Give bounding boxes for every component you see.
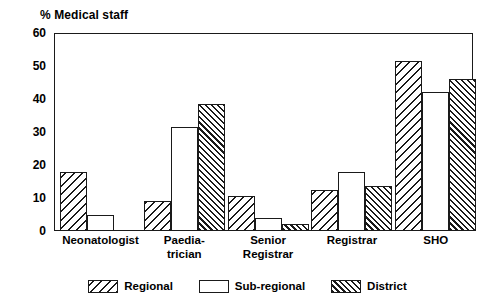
- x-category-label: SHO: [423, 234, 448, 248]
- y-tick-label: 60: [33, 26, 46, 40]
- legend-item-district[interactable]: District: [331, 280, 407, 293]
- x-category-label: Senior Registrar: [243, 234, 294, 261]
- bar-subregional: [171, 127, 198, 231]
- bar-regional: [60, 172, 87, 231]
- x-category-label: Registrar: [327, 234, 378, 248]
- bar-district: [282, 224, 309, 231]
- y-tick-label: 40: [33, 92, 46, 106]
- bar-district: [365, 186, 392, 231]
- legend-label: Sub-regional: [235, 280, 305, 292]
- bar-subregional: [255, 218, 282, 231]
- x-category-label: Neonatologist: [62, 234, 139, 248]
- bar-district: [449, 79, 476, 231]
- y-axis: 0102030405060: [0, 0, 54, 308]
- legend-swatch-regional-icon: [88, 280, 118, 293]
- bar-regional: [395, 61, 422, 231]
- y-tick-label: 10: [33, 191, 46, 205]
- legend-label: District: [367, 280, 407, 292]
- x-category-label: Paedia- trician: [164, 234, 205, 261]
- legend-item-subregional[interactable]: Sub-regional: [199, 280, 305, 293]
- legend-swatch-district-icon: [331, 280, 361, 293]
- bar-subregional: [422, 92, 449, 231]
- bar-regional: [228, 196, 255, 231]
- legend-item-regional[interactable]: Regional: [88, 280, 173, 293]
- bar-subregional: [87, 215, 114, 232]
- y-tick-label: 50: [33, 59, 46, 73]
- legend-label: Regional: [124, 280, 173, 292]
- chart-legend: RegionalSub-regionalDistrict: [0, 274, 495, 298]
- y-tick-label: 0: [39, 224, 46, 238]
- y-tick-label: 20: [33, 158, 46, 172]
- y-tick-label: 30: [33, 125, 46, 139]
- legend-swatch-subregional-icon: [199, 280, 229, 293]
- bars-layer: [54, 33, 473, 231]
- bar-regional: [144, 201, 171, 231]
- bar-district: [198, 104, 225, 231]
- x-axis: NeonatologistPaedia- tricianSenior Regis…: [54, 234, 473, 274]
- bar-regional: [311, 190, 338, 231]
- bar-subregional: [338, 172, 365, 231]
